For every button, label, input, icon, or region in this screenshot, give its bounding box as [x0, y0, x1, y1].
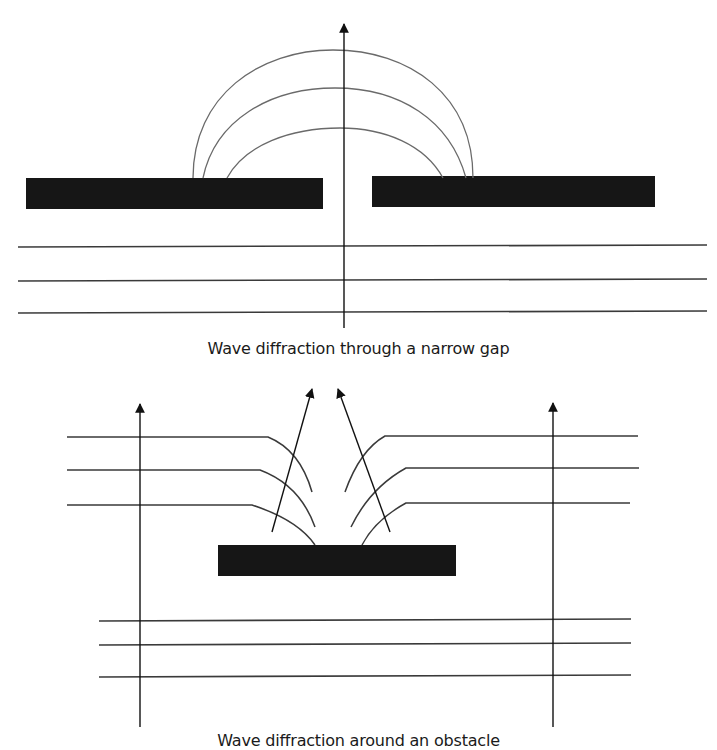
diffracted-arcs — [193, 50, 473, 178]
right-barrier — [372, 176, 655, 207]
obstacle — [218, 545, 456, 576]
narrow-gap-figure — [18, 24, 707, 328]
bent-wavefronts-left — [67, 437, 315, 545]
caption-obstacle: Wave diffraction around an obstacle — [0, 731, 717, 750]
caption-narrow-gap: Wave diffraction through a narrow gap — [0, 339, 717, 358]
incident-wavefronts — [18, 245, 707, 313]
left-barrier — [26, 178, 323, 209]
obstacle-figure — [67, 389, 639, 727]
incident-wavefronts-lower — [99, 619, 631, 677]
